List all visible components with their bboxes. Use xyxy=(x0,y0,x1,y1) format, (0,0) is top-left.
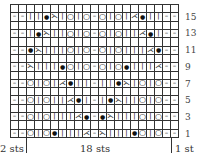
stitch-knit-icon: | xyxy=(131,113,139,121)
stitch-blank xyxy=(115,105,123,113)
stitch-purl-icon: – xyxy=(19,130,27,138)
stitch-knit-icon: | xyxy=(131,30,139,38)
stitch-ssk-icon: ⋋ xyxy=(123,80,131,88)
stitch-bobble-icon: ● xyxy=(107,96,115,104)
stitch-knit-icon: | xyxy=(59,13,67,21)
stitch-yarn-over-icon: ○ xyxy=(155,113,163,121)
stitch-blank xyxy=(83,88,91,96)
stitch-blank xyxy=(27,105,35,113)
stitch-knit-icon: | xyxy=(131,80,139,88)
stitch-blank xyxy=(35,38,43,46)
stitch-blank xyxy=(59,72,67,80)
stitch-yarn-over-icon: ○ xyxy=(83,63,91,71)
stitch-blank xyxy=(91,121,99,129)
stitch-yarn-over-icon: ○ xyxy=(43,113,51,121)
stitch-blank xyxy=(27,88,35,96)
stitch-purl-icon: – xyxy=(171,80,179,88)
stitch-knit-icon: | xyxy=(83,96,91,104)
stitch-knit-icon: | xyxy=(59,47,67,55)
stitch-blank xyxy=(107,121,115,129)
stitch-blank xyxy=(99,88,107,96)
stitch-knit-icon: | xyxy=(131,96,139,104)
stitch-blank xyxy=(19,121,27,129)
stitch-yarn-over-icon: ○ xyxy=(99,47,107,55)
stitch-blank xyxy=(43,5,51,13)
stitch-yarn-over-icon: ○ xyxy=(99,63,107,71)
stitch-blank xyxy=(43,88,51,96)
stitch-blank xyxy=(107,88,115,96)
stitch-blank xyxy=(59,22,67,30)
stitch-knit-icon: | xyxy=(107,130,115,138)
stitch-bobble-icon: ● xyxy=(147,30,155,38)
stitch-purl-icon: – xyxy=(91,130,99,138)
stitch-blank xyxy=(139,72,147,80)
stitch-yarn-over-icon: ○ xyxy=(99,13,107,21)
stitch-blank xyxy=(19,72,27,80)
stitch-k2tog-icon: ⋌ xyxy=(67,96,75,104)
stitch-blank xyxy=(83,38,91,46)
stitch-knit-icon: | xyxy=(51,80,59,88)
stitch-knit-icon: | xyxy=(147,63,155,71)
stitch-k2tog-icon: ⋌ xyxy=(139,30,147,38)
stitch-yarn-over-icon: ○ xyxy=(139,113,147,121)
stitch-blank xyxy=(139,121,147,129)
stitch-blank xyxy=(171,5,179,13)
stitch-knit-icon: | xyxy=(107,30,115,38)
stitch-blank xyxy=(59,105,67,113)
row-number-label: 9 xyxy=(185,63,191,72)
stitch-blank xyxy=(11,38,19,46)
stitch-blank xyxy=(99,105,107,113)
stitch-blank xyxy=(35,22,43,30)
stitch-blank xyxy=(131,22,139,30)
stitch-purl-icon: – xyxy=(163,13,171,21)
knitting-chart-grid: ––||●⋋|○|○–○|○|⋌●||––––|●⋋||○|○–○|○||⋌●|… xyxy=(10,4,179,138)
stitch-blank xyxy=(43,38,51,46)
stitch-purl-icon: – xyxy=(11,63,19,71)
stitch-blank xyxy=(99,121,107,129)
stitch-knit-icon: | xyxy=(51,96,59,104)
stitch-knit-icon: | xyxy=(155,13,163,21)
stitch-knit-icon: | xyxy=(27,13,35,21)
stitch-knit-icon: | xyxy=(35,96,43,104)
stitch-bobble-icon: ● xyxy=(43,13,51,21)
stitch-blank xyxy=(91,72,99,80)
stitch-blank xyxy=(75,105,83,113)
stitch-blank xyxy=(35,88,43,96)
stitch-purl-icon: – xyxy=(171,113,179,121)
stitch-blank xyxy=(139,5,147,13)
stitch-blank xyxy=(51,121,59,129)
stitch-blank xyxy=(163,38,171,46)
stitch-knit-icon: | xyxy=(99,80,107,88)
stitch-knit-icon: | xyxy=(35,113,43,121)
stitch-blank xyxy=(155,38,163,46)
stitch-purl-icon: – xyxy=(11,80,19,88)
stitch-blank xyxy=(139,55,147,63)
stitch-blank xyxy=(163,72,171,80)
stitch-blank xyxy=(107,72,115,80)
stitch-yarn-over-icon: ○ xyxy=(115,30,123,38)
stitch-knit-icon: | xyxy=(99,96,107,104)
stitch-purl-icon: – xyxy=(163,80,171,88)
stitch-knit-icon: | xyxy=(67,113,75,121)
stitch-blank xyxy=(147,88,155,96)
row-number-label: 7 xyxy=(185,80,191,89)
stitch-blank xyxy=(171,88,179,96)
stitch-knit-icon: | xyxy=(147,96,155,104)
stitch-blank xyxy=(147,38,155,46)
stitch-blank xyxy=(139,88,147,96)
stitch-blank xyxy=(51,88,59,96)
stitch-blank xyxy=(11,121,19,129)
stitch-knit-icon: | xyxy=(51,47,59,55)
stitch-bobble-icon: ● xyxy=(99,113,107,121)
stitch-k2tog-icon: ⋌ xyxy=(59,80,67,88)
stitch-blank xyxy=(67,121,75,129)
stitch-yarn-over-icon: ○ xyxy=(27,96,35,104)
stitch-ssk-icon: ⋋ xyxy=(115,96,123,104)
stitch-purl-icon: – xyxy=(19,30,27,38)
stitch-blank xyxy=(99,38,107,46)
stitch-knit-icon: | xyxy=(59,30,67,38)
stitch-purl-icon: – xyxy=(163,30,171,38)
stitch-knit-icon: | xyxy=(75,13,83,21)
stitch-blank xyxy=(51,38,59,46)
stitch-blank xyxy=(67,55,75,63)
